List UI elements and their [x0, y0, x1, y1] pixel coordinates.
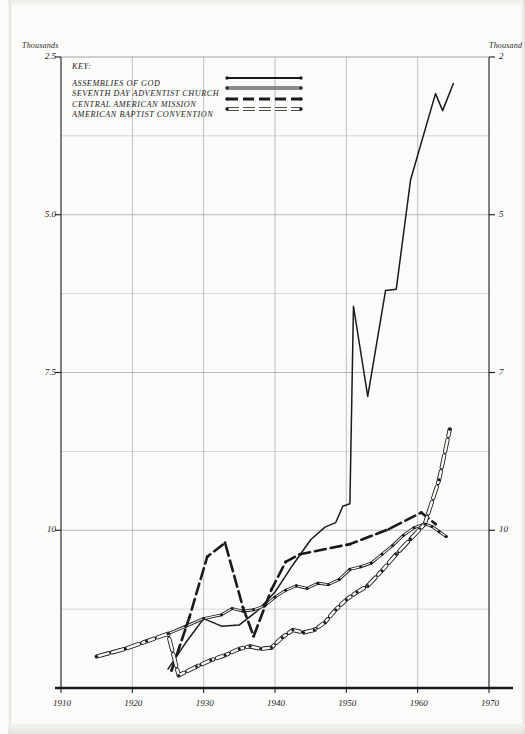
legend-endpoint	[225, 77, 228, 80]
legend-item: SEVENTH DAY ADVENTIST CHURCH	[72, 82, 322, 92]
data-point	[224, 541, 227, 544]
data-point	[323, 621, 326, 624]
x-tick-label: 1920	[120, 698, 146, 708]
data-point	[295, 584, 298, 587]
y-tick-label-right: 2	[499, 51, 504, 61]
legend-endpoint	[225, 107, 228, 110]
data-point	[145, 640, 148, 643]
data-point	[220, 613, 223, 616]
data-point	[170, 669, 173, 672]
legend-swatch-dashdot-thick	[224, 104, 304, 114]
data-point	[284, 589, 287, 592]
x-tick-label: 1940	[263, 698, 289, 708]
y-tick-label-right: 5	[499, 209, 504, 219]
data-point	[423, 522, 426, 525]
data-point	[334, 608, 337, 611]
data-point	[270, 646, 273, 649]
data-point	[348, 543, 351, 546]
data-point	[327, 583, 330, 586]
data-point	[270, 588, 273, 591]
data-series-layer	[95, 84, 453, 677]
data-point	[259, 647, 262, 650]
data-point	[438, 530, 441, 533]
legend: KEY: ASSEMBLIES OF GODSEVENTH DAY ADVENT…	[72, 62, 322, 113]
series-line-outer	[97, 429, 450, 675]
data-point	[430, 525, 433, 528]
data-point	[206, 555, 209, 558]
data-point	[413, 526, 416, 529]
data-point	[167, 632, 170, 635]
series-line	[168, 84, 453, 670]
data-point	[298, 553, 301, 556]
legend-endpoint	[299, 107, 302, 110]
x-tick-label: 1950	[334, 698, 360, 708]
x-tick-label: 1970	[477, 698, 503, 708]
x-tick-label: 1960	[406, 698, 432, 708]
data-point	[284, 560, 287, 563]
data-point	[195, 665, 198, 668]
y-axis-caption-right: Thousand	[489, 41, 522, 50]
legend-endpoint	[225, 87, 228, 90]
y-tick-label-right: 7	[499, 367, 504, 377]
data-point	[381, 553, 384, 556]
data-point	[202, 617, 205, 620]
data-point	[302, 631, 305, 634]
legend-endpoint	[299, 97, 302, 100]
data-point	[231, 607, 234, 610]
y-tick-label: 10	[30, 524, 56, 534]
data-point	[395, 553, 398, 556]
series-1	[168, 84, 453, 670]
legend-item: ASSEMBLIES OF GOD	[72, 72, 322, 82]
data-point	[381, 569, 384, 572]
data-point	[356, 591, 359, 594]
x-tick-label: 1930	[192, 698, 218, 708]
y-tick-label: 7.5	[30, 367, 56, 377]
y-axis-caption-left: Thousands	[22, 41, 58, 50]
legend-endpoint	[299, 87, 302, 90]
data-point	[402, 534, 405, 537]
scanned-page: Thousands Thousand 107.55.02.5 10752 191…	[0, 0, 525, 734]
legend-endpoint	[299, 77, 302, 80]
data-point	[345, 598, 348, 601]
y-tick-label-right: 10	[499, 524, 508, 534]
data-point	[316, 582, 319, 585]
series-4	[95, 428, 451, 677]
data-point	[448, 428, 451, 431]
legend-item: AMERICAN BAPTIST CONVENTION	[72, 103, 322, 113]
data-point	[249, 645, 252, 648]
data-point	[388, 527, 391, 530]
data-point	[177, 674, 180, 677]
legend-rows: ASSEMBLIES OF GODSEVENTH DAY ADVENTIST C…	[72, 72, 322, 113]
x-tick-label: 1910	[49, 698, 75, 708]
data-point	[252, 635, 255, 638]
data-point	[434, 522, 437, 525]
data-point	[95, 655, 98, 658]
legend-item-label: AMERICAN BAPTIST CONVENTION	[72, 110, 213, 119]
data-point	[366, 584, 369, 587]
data-point	[291, 628, 294, 631]
data-point	[420, 511, 423, 514]
y-tick-label: 2.5	[30, 51, 56, 61]
legend-item: CENTRAL AMERICAN MISSION	[72, 93, 322, 103]
data-point	[124, 647, 127, 650]
data-point	[274, 596, 277, 599]
series-3	[170, 511, 437, 672]
data-point	[391, 544, 394, 547]
data-point	[338, 578, 341, 581]
data-point	[313, 628, 316, 631]
legend-endpoint	[225, 97, 228, 100]
data-point	[238, 647, 241, 650]
data-point	[188, 616, 191, 619]
data-point	[209, 659, 212, 662]
data-point	[409, 538, 412, 541]
data-point	[359, 565, 362, 568]
data-point	[281, 636, 284, 639]
data-point	[306, 587, 309, 590]
data-point	[348, 568, 351, 571]
data-point	[445, 535, 448, 538]
series-line	[172, 513, 436, 671]
legend-title: KEY:	[72, 62, 322, 72]
data-point	[224, 654, 227, 657]
data-point	[370, 562, 373, 565]
data-point	[252, 608, 255, 611]
